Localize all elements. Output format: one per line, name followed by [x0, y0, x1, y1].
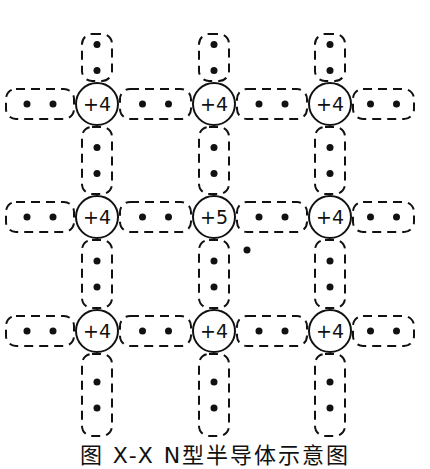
atom: +4 — [309, 83, 351, 125]
valence-electron — [211, 144, 218, 151]
bond-band — [353, 89, 414, 119]
valence-electron — [165, 328, 172, 335]
bond-band — [237, 89, 307, 119]
bond-band — [315, 127, 345, 194]
atom: +4 — [76, 83, 118, 125]
valence-electron — [393, 101, 400, 108]
bond-band — [82, 127, 112, 194]
bond-band — [353, 316, 414, 346]
valence-electron — [94, 379, 101, 386]
valence-electron — [367, 328, 374, 335]
atom-nuclei: +4+4+4+4+5+4+4+4+4 — [76, 83, 351, 352]
valence-electron — [211, 41, 218, 48]
valence-electron — [24, 101, 31, 108]
bond-band — [6, 89, 74, 119]
bond-band — [120, 202, 191, 232]
valence-electron — [211, 170, 218, 177]
atom-charge-label: +4 — [200, 320, 228, 342]
valence-electron — [211, 258, 218, 265]
valence-electron — [327, 41, 334, 48]
valence-electron — [50, 101, 57, 108]
bond-band — [315, 354, 345, 436]
atom: +4 — [193, 83, 235, 125]
valence-electron — [327, 67, 334, 74]
valence-electron — [327, 284, 334, 291]
atom-charge-label: +4 — [316, 320, 344, 342]
valence-electron — [50, 328, 57, 335]
bond-band — [199, 240, 229, 308]
valence-electron — [94, 405, 101, 412]
valence-electron — [94, 41, 101, 48]
valence-electron — [367, 214, 374, 221]
bond-band — [120, 316, 191, 346]
atom-charge-label: +4 — [316, 93, 344, 115]
valence-electron — [139, 214, 146, 221]
valence-electron — [211, 405, 218, 412]
bond-band — [6, 316, 74, 346]
atom: +4 — [76, 310, 118, 352]
valence-electron — [94, 144, 101, 151]
valence-electron — [24, 328, 31, 335]
valence-electron — [94, 170, 101, 177]
valence-electron — [282, 101, 289, 108]
valence-electron — [256, 101, 263, 108]
valence-electron — [282, 214, 289, 221]
bond-band — [82, 240, 112, 308]
atom-charge-label: +4 — [83, 206, 111, 228]
valence-electron — [327, 258, 334, 265]
atom-charge-label: +4 — [83, 320, 111, 342]
valence-electron — [327, 379, 334, 386]
valence-electron — [139, 101, 146, 108]
atom: +4 — [193, 310, 235, 352]
atom-charge-label: +5 — [200, 206, 228, 228]
valence-electron — [327, 170, 334, 177]
valence-electron — [50, 214, 57, 221]
valence-electron — [139, 328, 146, 335]
valence-electron — [211, 284, 218, 291]
atom: +4 — [309, 310, 351, 352]
atom: +4 — [76, 196, 118, 238]
valence-electron — [211, 67, 218, 74]
valence-electron — [367, 101, 374, 108]
valence-electron — [165, 214, 172, 221]
figure-caption: 图 X-X N型半导体示意图 — [0, 437, 430, 469]
valence-electron — [256, 214, 263, 221]
bond-band — [237, 202, 307, 232]
valence-electron — [256, 328, 263, 335]
bond-band — [199, 354, 229, 436]
atom: +5 — [193, 196, 235, 238]
valence-electron — [327, 144, 334, 151]
valence-electron — [94, 284, 101, 291]
valence-electron — [24, 214, 31, 221]
valence-electron — [165, 101, 172, 108]
atom-charge-label: +4 — [200, 93, 228, 115]
bond-band — [237, 316, 307, 346]
valence-electron — [393, 328, 400, 335]
valence-electron — [94, 258, 101, 265]
bond-band — [6, 202, 74, 232]
bond-band — [199, 127, 229, 194]
valence-electron — [393, 214, 400, 221]
free-electron — [244, 247, 251, 254]
atom-charge-label: +4 — [316, 206, 344, 228]
bond-band — [353, 202, 414, 232]
atom: +4 — [309, 196, 351, 238]
valence-electron — [282, 328, 289, 335]
valence-electron — [94, 67, 101, 74]
valence-electron — [211, 379, 218, 386]
bond-band — [120, 89, 191, 119]
valence-electron — [327, 405, 334, 412]
bond-band — [82, 354, 112, 436]
atom-charge-label: +4 — [83, 93, 111, 115]
bond-band — [315, 240, 345, 308]
